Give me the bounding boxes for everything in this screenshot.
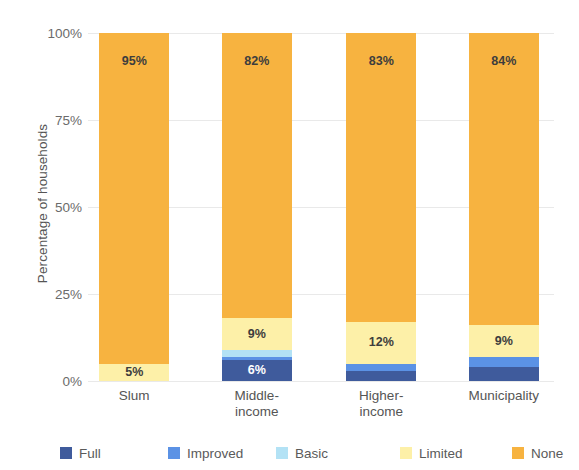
chart-legend: FullImprovedBasicLimitedNone <box>0 443 579 465</box>
y-axis-tick-label: 100% <box>22 26 82 41</box>
bar-segment-improved <box>346 364 416 371</box>
x-axis-tick-label: Slum <box>74 388 194 404</box>
plot-area: 5%95%6%9%82%12%83%9%84% <box>88 33 554 381</box>
bar-segment-value-label: 84% <box>469 55 539 68</box>
bar-segment-full <box>469 367 539 381</box>
legend-item-limited[interactable]: Limited <box>400 443 463 463</box>
legend-label: Improved <box>187 446 243 461</box>
bar-segment-limited: 5% <box>99 364 169 381</box>
legend-swatch-improved <box>168 447 180 459</box>
bar-segment-limited: 12% <box>346 322 416 364</box>
bar-segment-value-label: 82% <box>222 55 292 68</box>
bar-segment-full <box>346 371 416 381</box>
legend-item-improved[interactable]: Improved <box>168 443 243 463</box>
bar-segment-none: 95% <box>99 33 169 364</box>
bar-segment-value-label: 83% <box>346 55 416 68</box>
bar-slum[interactable]: 5%95% <box>99 33 169 381</box>
legend-label: Basic <box>295 446 328 461</box>
legend-swatch-limited <box>400 447 412 459</box>
y-axis-tick-label: 25% <box>22 287 82 302</box>
x-axis-tick-label: Middle-income <box>197 388 317 420</box>
bar-municipality[interactable]: 9%84% <box>469 33 539 381</box>
legend-swatch-none <box>512 447 524 459</box>
x-axis-tick-label: Municipality <box>444 388 564 404</box>
chart-figure: Percentage of households 0%25%50%75%100%… <box>0 0 579 470</box>
bar-segment-none: 84% <box>469 33 539 325</box>
bar-middle-income[interactable]: 6%9%82% <box>222 33 292 381</box>
y-axis-tick-labels: 0%25%50%75%100% <box>20 33 82 381</box>
x-axis-tick-labels: SlumMiddle-incomeHigher-incomeMunicipali… <box>88 388 554 434</box>
legend-label: Full <box>79 446 101 461</box>
bar-higher-income[interactable]: 12%83% <box>346 33 416 381</box>
bar-segment-value-label: 5% <box>125 366 143 379</box>
x-axis-tick-label: Higher-income <box>321 388 441 420</box>
bar-segment-limited: 9% <box>222 318 292 349</box>
bar-segment-value-label: 9% <box>248 328 266 341</box>
y-axis-tick-label: 75% <box>22 113 82 128</box>
legend-swatch-full <box>60 447 72 459</box>
legend-label: None <box>531 446 563 461</box>
bar-segment-value-label: 9% <box>495 335 513 348</box>
bar-segment-none: 82% <box>222 33 292 318</box>
bar-segment-limited: 9% <box>469 325 539 356</box>
y-axis-tick-label: 0% <box>22 374 82 389</box>
bar-segment-improved <box>469 357 539 367</box>
legend-label: Limited <box>419 446 463 461</box>
bar-segment-improved <box>222 357 292 360</box>
y-axis-tick-label: 50% <box>22 200 82 215</box>
legend-item-none[interactable]: None <box>512 443 563 463</box>
bar-segment-value-label: 95% <box>99 55 169 68</box>
legend-item-full[interactable]: Full <box>60 443 101 463</box>
bar-segment-full: 6% <box>222 360 292 381</box>
bar-segment-basic <box>222 350 292 357</box>
legend-swatch-basic <box>276 447 288 459</box>
legend-item-basic[interactable]: Basic <box>276 443 328 463</box>
gridline <box>88 381 554 382</box>
bar-segment-value-label: 12% <box>369 336 394 349</box>
bar-segment-none: 83% <box>346 33 416 322</box>
bar-segment-value-label: 6% <box>248 364 266 377</box>
